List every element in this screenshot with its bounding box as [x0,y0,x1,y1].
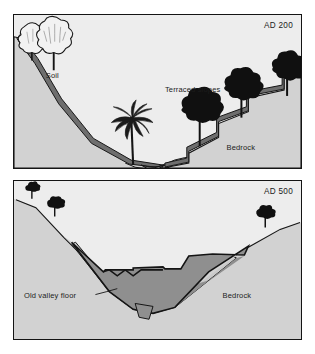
panel-ad-200-illustration: Soil Terraced slopes Bedrock [14,15,301,168]
era-label-ad-500: AD 500 [264,187,293,196]
label-bedrock: Bedrock [227,143,256,152]
label-old-valley-floor: Old valley floor [24,291,77,300]
label-terraced-slopes: Terraced slopes [165,85,221,94]
panel-ad-200: Soil Terraced slopes Bedrock AD 200 [13,14,302,169]
label-soil: Soil [46,71,59,80]
panel-ad-500-illustration: Old valley floor Bedrock [14,181,301,339]
valley-erosion-figure: Soil Terraced slopes Bedrock AD 200 [0,0,315,354]
era-label-ad-200: AD 200 [264,21,293,30]
label-bedrock: Bedrock [223,291,252,300]
panel-ad-500: Old valley floor Bedrock AD 500 [13,180,302,340]
